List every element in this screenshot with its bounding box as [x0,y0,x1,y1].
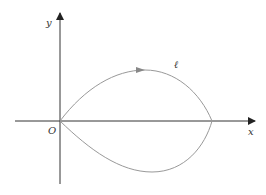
origin-label: O [48,125,56,136]
curve-label: ℓ [174,59,178,70]
direction-arrow-icon [136,67,145,73]
curve-lower-arc [60,121,212,172]
coordinate-diagram: y x O ℓ [0,0,266,195]
curve-upper-arc [60,70,212,121]
y-axis-label: y [45,17,52,28]
x-axis-label: x [248,126,254,137]
